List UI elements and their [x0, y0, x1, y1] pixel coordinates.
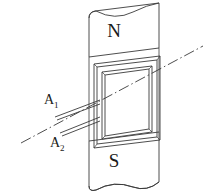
- lead-label-a2-group: A 2: [50, 135, 65, 153]
- lead-label-a1-group: A 1: [44, 92, 59, 110]
- north-pole-label: N: [107, 20, 121, 41]
- physics-diagram-figure: N S: [0, 0, 210, 196]
- north-pole-face: [89, 3, 159, 57]
- north-pole-body: [89, 3, 159, 57]
- south-pole-label: S: [109, 150, 120, 171]
- diagram-canvas: N S: [0, 0, 210, 196]
- lead-label-a2-subscript: 2: [60, 143, 65, 153]
- lead-a1-line: [55, 100, 100, 117]
- coil-inner-outline-2: [105, 69, 149, 136]
- lead-label-a1-subscript: 1: [54, 100, 59, 110]
- lead-wire-a1: [55, 100, 100, 120]
